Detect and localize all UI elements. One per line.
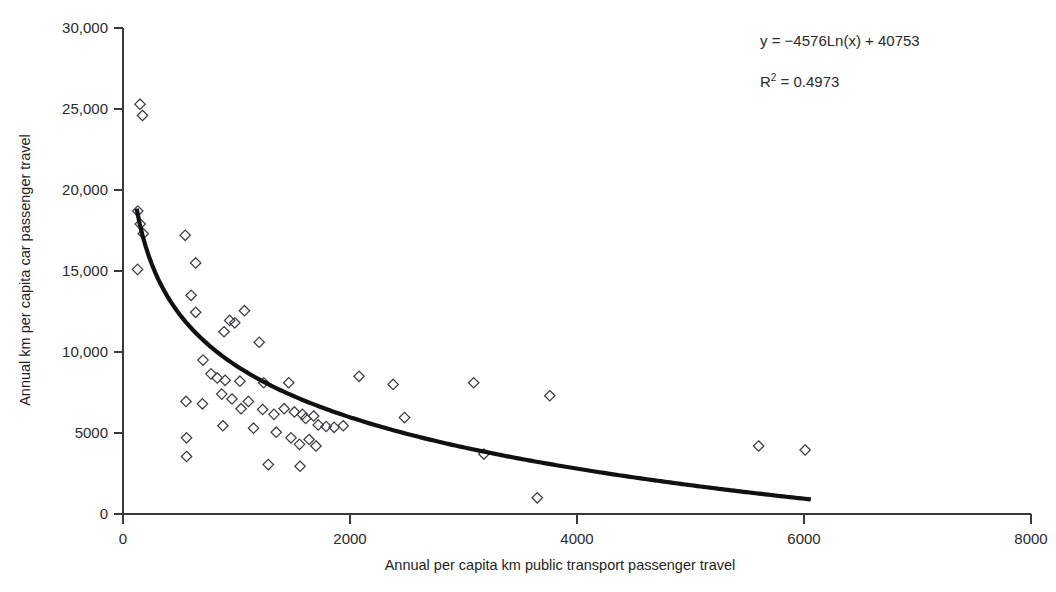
data-point-marker [286, 433, 296, 443]
data-point-marker [137, 110, 147, 120]
data-point-marker [800, 445, 810, 455]
data-point-marker [338, 421, 348, 431]
r-squared-annotation: R2 = 0.4973 [760, 72, 839, 90]
data-point-marker [180, 230, 190, 240]
data-point-marker [219, 327, 229, 337]
y-tick-label: 5000 [75, 424, 108, 441]
x-tick-label: 0 [119, 530, 127, 547]
x-axis-ticks: 02000400060008000 [119, 514, 1048, 547]
data-point-marker [243, 396, 253, 406]
y-tick-label: 0 [100, 505, 108, 522]
data-point-marker [230, 318, 240, 328]
x-tick-label: 4000 [560, 530, 593, 547]
data-point-marker [354, 371, 364, 381]
data-point-marker [532, 493, 542, 503]
data-point-marker [399, 412, 409, 422]
x-tick-label: 2000 [333, 530, 366, 547]
y-tick-label: 30,000 [62, 19, 108, 36]
y-axis-ticks: 0500010,00015,00020,00025,00030,000 [62, 19, 123, 522]
data-point-marker [248, 423, 258, 433]
data-point-marker [181, 396, 191, 406]
data-point-marker [545, 391, 555, 401]
data-point-marker [254, 337, 264, 347]
data-point-marker [224, 315, 234, 325]
y-axis-title: Annual km per capita car passenger trave… [17, 134, 33, 406]
data-point-marker [388, 379, 398, 389]
data-point-marker [271, 427, 281, 437]
x-tick-label: 8000 [1014, 530, 1047, 547]
y-tick-label: 20,000 [62, 181, 108, 198]
scatter-chart: 0500010,00015,00020,00025,00030,000 0200… [0, 0, 1056, 592]
r-squared-base: R [760, 73, 771, 90]
data-point-marker [132, 264, 142, 274]
y-tick-label: 25,000 [62, 100, 108, 117]
data-point-marker [279, 404, 289, 414]
data-point-marker [218, 421, 228, 431]
data-point-marker [197, 399, 207, 409]
data-point-marker [469, 378, 479, 388]
data-point-marker [227, 394, 237, 404]
data-point-marker [284, 378, 294, 388]
data-point-marker [217, 389, 227, 399]
chart-canvas: 0500010,00015,00020,00025,00030,000 0200… [0, 0, 1056, 592]
data-point-marker [239, 305, 249, 315]
data-point-marker [236, 404, 246, 414]
r-squared-value: = 0.4973 [776, 73, 839, 90]
equation-annotation: y = −4576Ln(x) + 40753 [760, 32, 920, 49]
data-point-marker [186, 290, 196, 300]
data-point-marker [181, 433, 191, 443]
data-point-marker [263, 459, 273, 469]
data-point-marker [190, 307, 200, 317]
data-point-marker [753, 441, 763, 451]
data-point-marker [257, 404, 267, 414]
data-point-marker [190, 258, 200, 268]
data-point-marker [235, 376, 245, 386]
x-axis-title: Annual per capita km public transport pa… [385, 557, 736, 573]
data-point-marker [269, 409, 279, 419]
data-point-marker [206, 369, 216, 379]
data-point-marker [181, 451, 191, 461]
x-tick-label: 6000 [787, 530, 820, 547]
y-tick-label: 10,000 [62, 343, 108, 360]
y-tick-label: 15,000 [62, 262, 108, 279]
trend-line [137, 209, 811, 500]
data-point-group [132, 99, 810, 503]
data-point-marker [295, 461, 305, 471]
data-point-marker [294, 439, 304, 449]
data-point-marker [135, 99, 145, 109]
data-point-marker [198, 355, 208, 365]
